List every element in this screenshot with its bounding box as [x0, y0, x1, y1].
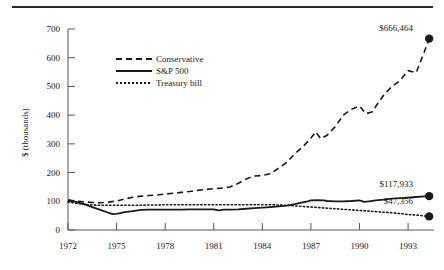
- series-endpoint-markers: [425, 34, 433, 220]
- endpoint-label-treasury-bill: $47,356: [333, 197, 413, 206]
- endpoint-marker-treasury-bill: [425, 212, 433, 220]
- y-axis-title: $ (thousands): [21, 93, 30, 173]
- plot-area: [0, 0, 444, 270]
- legend-swatch-solid: [116, 70, 152, 72]
- y-tick-label: 700: [32, 25, 60, 34]
- y-tick-label: 300: [32, 140, 60, 149]
- endpoint-label-sp500: $117,933: [333, 180, 413, 189]
- chart-legend: Conservative S&P 500 Treasury bill: [116, 53, 246, 93]
- legend-swatch-dotted: [116, 82, 152, 84]
- chart-figure: 0100200300400500600700 19721975197819811…: [0, 0, 444, 270]
- x-tick-label: 1978: [150, 242, 180, 251]
- endpoint-marker-conservative: [425, 34, 433, 42]
- x-tick-label: 1984: [247, 242, 277, 251]
- endpoint-marker-s-p-500: [425, 192, 433, 200]
- y-tick-label: 400: [32, 111, 60, 120]
- legend-label-sp500: S&P 500: [156, 65, 188, 77]
- legend-swatch-dashed: [116, 58, 152, 60]
- y-tick-label: 600: [32, 54, 60, 63]
- legend-label-conservative: Conservative: [156, 53, 204, 65]
- y-tick-label: 200: [32, 169, 60, 178]
- x-tick-label: 1975: [102, 242, 132, 251]
- legend-label-treasury-bill: Treasury bill: [156, 77, 202, 89]
- x-tick-label: 1987: [296, 242, 326, 251]
- x-tick-label: 1981: [199, 242, 229, 251]
- x-tick-label: 1972: [53, 242, 83, 251]
- x-axis-ticks: [68, 223, 408, 230]
- y-tick-label: 0: [32, 226, 60, 235]
- x-tick-label: 1990: [345, 242, 375, 251]
- endpoint-label-conservative: $666,464: [333, 24, 413, 33]
- y-tick-label: 100: [32, 197, 60, 206]
- y-tick-label: 500: [32, 82, 60, 91]
- x-tick-label: 1993: [393, 242, 423, 251]
